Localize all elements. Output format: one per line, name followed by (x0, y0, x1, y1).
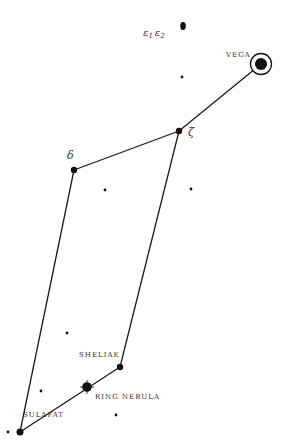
faint-star (115, 414, 118, 417)
faint-star (66, 332, 69, 335)
zeta-label: ζ (188, 126, 195, 139)
star-epsilon: ε1ε2 (143, 22, 186, 40)
constellation-lines (20, 64, 261, 432)
star-sulafat: SULAFAT (17, 411, 65, 436)
line-zeta-delta (74, 131, 179, 170)
sheliak-label: SHELIAK (79, 351, 120, 359)
zeta-star-icon (176, 128, 182, 134)
star-zeta: ζ (176, 126, 195, 139)
star-delta: δ (67, 149, 77, 173)
faint-star (7, 431, 10, 434)
delta-star-icon (71, 167, 77, 173)
epsilon-star-icon (180, 22, 186, 30)
faint-star (190, 188, 193, 191)
line-vega-zeta (179, 64, 261, 131)
vega-star-icon (255, 58, 267, 70)
ring-nebula: RING NEBULA (80, 380, 160, 401)
faint-star (40, 390, 43, 393)
epsilon-label: ε1ε2 (143, 27, 165, 40)
faint-star (104, 189, 107, 192)
star-sheliak: SHELIAK (79, 351, 123, 370)
vega-label: VEGA (225, 51, 251, 59)
faint-star (181, 76, 184, 79)
ring-nebula-label: RING NEBULA (95, 393, 160, 401)
line-zeta-sheliak (120, 131, 179, 367)
sulafat-star-icon (17, 429, 24, 436)
sulafat-label: SULAFAT (23, 411, 64, 419)
delta-label: δ (67, 149, 74, 162)
sheliak-star-icon (117, 364, 123, 370)
star-vega: VEGA (225, 51, 272, 75)
line-delta-sulafat (20, 170, 74, 432)
constellation-chart: VEGA ζ δ SHELIAK SULAFAT RING NEBULA ε1ε… (0, 0, 289, 441)
